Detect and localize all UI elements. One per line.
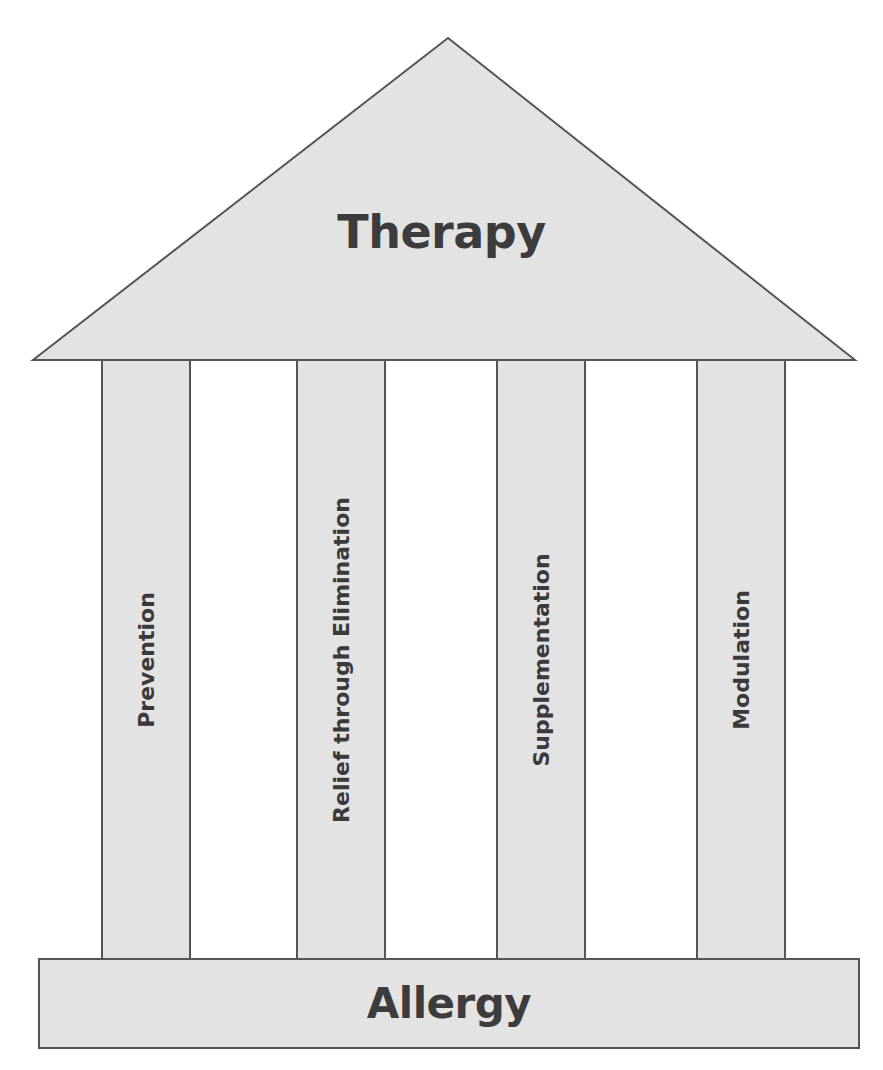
pillar-modulation: Modulation — [696, 361, 786, 958]
pillar-label: Relief through Elimination — [329, 497, 354, 823]
base-label: Allergy — [367, 979, 531, 1028]
pillar-label: Prevention — [134, 592, 159, 728]
pillar-prevention: Prevention — [101, 361, 191, 958]
foundation-base: Allergy — [38, 958, 860, 1049]
therapy-temple-diagram: Therapy Prevention Relief through Elimin… — [0, 0, 883, 1070]
pillar-label: Supplementation — [529, 553, 554, 766]
roof-label: Therapy — [0, 205, 883, 259]
pillar-relief-through-elimination: Relief through Elimination — [296, 361, 386, 958]
pillar-label: Modulation — [729, 590, 754, 730]
pillar-supplementation: Supplementation — [496, 361, 586, 958]
